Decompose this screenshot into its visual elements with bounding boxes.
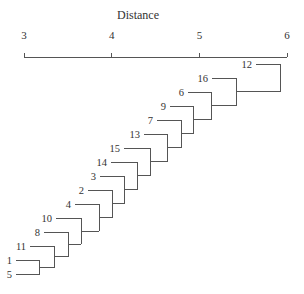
leaf-label: 6	[179, 87, 184, 98]
leaf-label: 7	[148, 115, 153, 126]
leaf-label: 13	[130, 129, 141, 140]
leaf-label: 16	[198, 73, 209, 84]
leaf-label: 4	[66, 199, 72, 210]
leaf-label: 9	[161, 101, 166, 112]
leaf-label: 11	[16, 241, 26, 252]
x-axis: 3456	[21, 29, 290, 57]
x-tick-label: 5	[197, 29, 203, 41]
leaf-label: 2	[79, 185, 84, 196]
leaf-label: 14	[97, 157, 108, 168]
dendrogram-chart: Distance 3456 12166971315143241081115	[0, 0, 304, 294]
leaf-label: 15	[110, 143, 121, 154]
leaf-label: 1	[7, 255, 12, 266]
leaf-label: 10	[42, 213, 53, 224]
dendrogram-tree	[16, 64, 281, 274]
x-axis-title: Distance	[117, 8, 159, 22]
x-tick-label: 6	[284, 29, 290, 41]
x-tick-label: 3	[21, 29, 27, 41]
leaf-label: 3	[91, 171, 96, 182]
leaf-label: 8	[35, 227, 40, 238]
leaf-label: 5	[7, 269, 12, 280]
x-tick-label: 4	[109, 29, 115, 41]
leaf-label: 12	[242, 59, 253, 70]
